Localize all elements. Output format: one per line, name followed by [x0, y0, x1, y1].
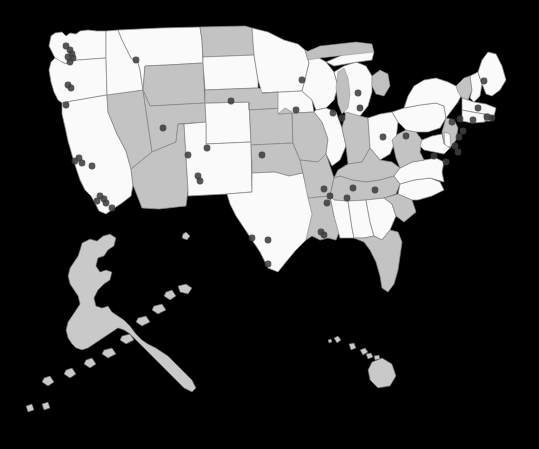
data-point — [259, 152, 266, 159]
data-point — [197, 178, 204, 185]
data-point — [321, 232, 328, 239]
data-point — [452, 143, 459, 150]
data-point — [89, 163, 96, 170]
data-point — [79, 160, 86, 167]
data-point — [133, 57, 140, 64]
data-point — [457, 116, 464, 123]
data-point — [327, 193, 334, 200]
data-point — [68, 85, 75, 92]
data-point — [460, 128, 467, 135]
state-south-dakota — [203, 55, 258, 90]
data-point — [185, 152, 192, 159]
data-point — [489, 115, 496, 122]
data-point — [330, 110, 337, 117]
data-point — [249, 235, 256, 242]
data-point — [470, 117, 477, 124]
data-point — [372, 187, 379, 194]
data-point — [299, 77, 306, 84]
data-point — [350, 185, 357, 192]
data-point — [324, 200, 331, 207]
data-point — [380, 134, 387, 141]
data-point — [456, 134, 463, 141]
data-point — [357, 105, 364, 112]
data-point — [443, 159, 450, 166]
data-point — [67, 59, 74, 66]
data-point — [204, 145, 211, 152]
state-north-dakota — [200, 26, 254, 57]
data-point — [455, 149, 462, 156]
data-point — [265, 237, 272, 244]
data-point — [265, 261, 272, 268]
data-point — [63, 102, 70, 109]
state-colorado — [205, 102, 251, 144]
data-point — [72, 158, 79, 165]
data-point — [94, 198, 101, 205]
data-point — [339, 115, 346, 122]
data-point — [449, 119, 456, 126]
data-point — [355, 90, 362, 97]
state-wyoming — [143, 63, 205, 106]
data-point — [431, 153, 438, 160]
data-point — [103, 200, 110, 207]
data-point — [228, 98, 235, 105]
map-canvas — [0, 0, 539, 449]
data-point — [475, 105, 482, 112]
us-dot-density-map — [0, 0, 539, 449]
data-point — [109, 205, 116, 212]
data-point — [293, 107, 300, 114]
data-point — [321, 186, 328, 193]
data-point — [403, 133, 410, 140]
data-point — [344, 195, 351, 202]
data-point — [481, 78, 488, 85]
data-point — [160, 125, 167, 132]
